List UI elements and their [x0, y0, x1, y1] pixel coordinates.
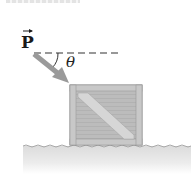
diagram-canvas — [0, 0, 191, 181]
angle-arc — [52, 53, 58, 68]
ground-surface — [23, 145, 191, 174]
cropped-text-remnant — [6, 0, 80, 3]
angle-label: θ — [66, 55, 75, 70]
force-label: P — [21, 34, 34, 51]
force-arrow — [34, 54, 69, 83]
physics-diagram: P θ — [0, 0, 191, 181]
crate — [70, 85, 142, 145]
